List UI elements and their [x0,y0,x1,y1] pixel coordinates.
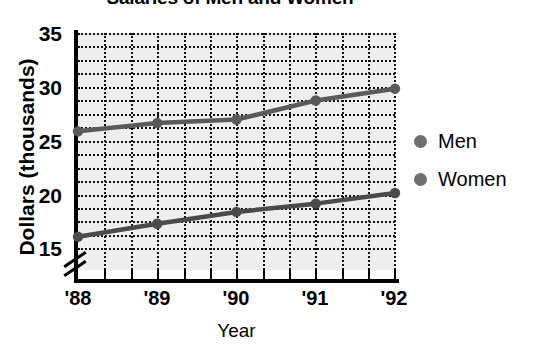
tick-x-minor [104,270,106,279]
gridline-vertical-minor [184,33,186,270]
gridline-vertical-90 [236,33,238,270]
tick-x-92 [394,270,396,279]
gridline-vertical-minor [131,33,133,270]
legend-item-men[interactable]: Men [414,122,534,160]
chart-title: Salaries of Men and Women [60,0,400,9]
gridline-vertical-minor [368,33,370,270]
legend-item-women[interactable]: Women [414,160,534,198]
x-tick-label-90: '90 [206,288,266,308]
y-tick-label-30: 30 [22,77,62,98]
line-chart: Salaries of Men and Women Dollars (thous… [0,0,536,352]
gridline-vertical-minor [104,33,106,270]
gridline-vertical-minor [263,33,265,270]
tick-x-89 [157,270,159,279]
gridline-vertical-91 [315,33,317,270]
tick-x-minor [263,270,265,279]
tick-x-90 [236,270,238,279]
x-tick-label-88: '88 [48,288,108,308]
gridline-vertical-minor [289,33,291,270]
gridline-vertical-89 [157,33,159,270]
chart-legend: Men Women [414,122,534,198]
tick-x-minor [210,270,212,279]
tick-x-91 [315,270,317,279]
y-tick-label-25: 25 [22,131,62,152]
x-tick-label-89: '89 [127,288,187,308]
tick-x-minor [184,270,186,279]
tick-x-minor [131,270,133,279]
x-axis-line [74,279,399,283]
axis-break-icon [62,254,88,276]
legend-label-women: Women [438,169,507,189]
x-axis-title: Year [78,320,395,342]
y-tick-label-15: 15 [22,238,62,259]
tick-x-minor [368,270,370,279]
x-tick-label-92: '92 [364,288,424,308]
gridline-vertical-minor [210,33,212,270]
tick-x-minor [289,270,291,279]
gridline-vertical-minor [342,33,344,270]
x-tick-label-91: '91 [285,288,345,308]
dot-marker-icon [414,173,427,186]
gridline-vertical-92 [394,33,396,270]
dot-marker-icon [414,135,427,148]
y-tick-label-20: 20 [22,185,62,206]
tick-x-minor [342,270,344,279]
legend-label-men: Men [438,131,477,151]
y-axis-line [74,30,78,283]
y-tick-label-35: 35 [22,23,62,44]
